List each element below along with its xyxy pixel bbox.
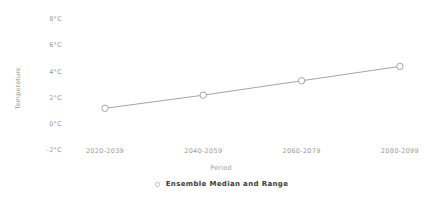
temperature-projection-chart: 8°C6°C4°C2°C0°C-2°C Temperature 2020-203…: [0, 0, 442, 198]
x-axis-tick-label: 2020-2039: [86, 148, 124, 155]
x-axis-tick-label: 2040-2059: [184, 148, 222, 155]
legend-item-label: Ensemble Median and Range: [166, 181, 289, 188]
series-markers-group: [102, 63, 403, 111]
chart-legend: Ensemble Median and Range: [0, 181, 442, 188]
data-point-marker: [298, 78, 304, 84]
data-point-marker: [102, 105, 108, 111]
data-point-marker: [200, 92, 206, 98]
x-axis-title: Period: [0, 165, 442, 172]
x-axis-tick-label: 2080-2099: [381, 148, 419, 155]
open-circle-icon: [154, 181, 161, 188]
x-axis-tick-label: 2060-2079: [283, 148, 321, 155]
data-point-marker: [397, 63, 403, 69]
series-line-ensemble-median: [105, 66, 400, 108]
